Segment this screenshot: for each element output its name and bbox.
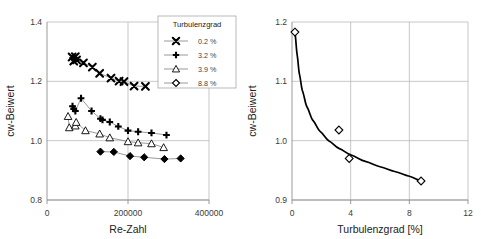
- right-fit-curve: [295, 32, 421, 181]
- data-point-cross-x: [96, 70, 103, 77]
- right-tick-labels: 0.91.01.11.204812: [275, 17, 473, 218]
- left-x-axis-title: Re-Zahl: [109, 223, 146, 235]
- y-tick-label: 1.2: [275, 17, 287, 27]
- y-tick-label: 1.2: [30, 76, 42, 86]
- right-axes: [292, 22, 468, 204]
- data-point-triangle-open: [106, 134, 114, 141]
- data-point-cross-x: [80, 60, 87, 67]
- x-tick-label: 12: [463, 208, 473, 218]
- data-point-diamond-open: [417, 177, 425, 185]
- right-data-series: [291, 28, 425, 185]
- x-tick-label: 8: [407, 208, 412, 218]
- y-tick-label: 1.0: [275, 136, 287, 146]
- y-tick-label: 0.9: [275, 195, 287, 205]
- legend-entry-label: 8.8 %: [198, 79, 217, 88]
- left-legend: Turbulenzgrad0.2 %3.2 %3.9 %8.8 %: [158, 16, 236, 88]
- chart-left-svg: 0.81.01.21.40200000400000 Turbulenzgrad0…: [0, 0, 240, 239]
- data-point-diamond-filled: [141, 154, 148, 161]
- legend-entry-label: 3.2 %: [198, 51, 217, 60]
- chart-right-turbulenzgrad: 0.91.01.11.204812 Turbulenzgrad [%] cw-B…: [240, 0, 481, 239]
- legend-title: Turbulenzgrad: [173, 20, 222, 29]
- data-point-diamond-filled: [126, 152, 133, 159]
- data-point-plus: [125, 127, 132, 134]
- legend-entry-label: 0.2 %: [198, 37, 217, 46]
- data-point-triangle-open: [72, 118, 80, 125]
- data-point-plus: [148, 130, 155, 137]
- data-point-cross-x: [108, 75, 115, 82]
- x-tick-label: 200000: [114, 208, 143, 218]
- data-point-plus: [115, 123, 122, 130]
- chart-left-re-zahl: 0.81.01.21.40200000400000 Turbulenzgrad0…: [0, 0, 240, 239]
- right-x-axis-title: Turbulenzgrad [%]: [337, 223, 422, 235]
- data-point-triangle-open: [65, 124, 73, 131]
- trend-curve: [295, 32, 421, 181]
- data-point-diamond-filled: [177, 155, 184, 162]
- left-y-axis-title: cw-Beiwert: [4, 85, 16, 136]
- right-y-axis-title: cw-Beiwert: [246, 85, 258, 136]
- data-point-diamond-filled: [161, 155, 168, 162]
- y-tick-label: 1.1: [275, 76, 287, 86]
- y-tick-label: 0.8: [30, 195, 42, 205]
- chart-right-svg: 0.91.01.11.204812 Turbulenzgrad [%] cw-B…: [240, 0, 481, 239]
- x-tick-label: 4: [348, 208, 353, 218]
- y-tick-label: 1.0: [30, 136, 42, 146]
- x-tick-label: 0: [45, 208, 50, 218]
- right-gridlines: [292, 22, 468, 200]
- figure-container: 0.81.01.21.40200000400000 Turbulenzgrad0…: [0, 0, 481, 239]
- data-point-cross-x: [89, 64, 96, 71]
- data-point-diamond-open: [335, 126, 343, 134]
- data-point-diamond-filled: [110, 148, 117, 155]
- legend-entry-label: 3.9 %: [198, 65, 217, 74]
- data-point-triangle-open: [64, 113, 72, 120]
- data-point-plus: [163, 132, 170, 139]
- y-tick-label: 1.4: [30, 17, 42, 27]
- x-tick-label: 0: [290, 208, 295, 218]
- data-point-plus: [106, 119, 113, 126]
- data-point-diamond-filled: [97, 148, 104, 155]
- data-point-triangle-open: [160, 144, 168, 151]
- data-point-plus: [135, 128, 142, 135]
- x-tick-label: 400000: [195, 208, 224, 218]
